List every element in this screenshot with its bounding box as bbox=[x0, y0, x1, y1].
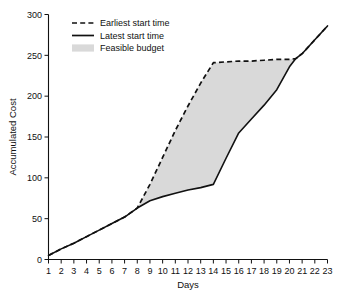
x-tick-label: 19 bbox=[272, 266, 282, 276]
x-tick-label: 10 bbox=[158, 266, 168, 276]
y-tick-label: 100 bbox=[27, 173, 42, 183]
legend-gray-swatch-icon bbox=[72, 44, 94, 51]
x-tick-label: 7 bbox=[122, 266, 127, 276]
x-tick-label: 15 bbox=[221, 266, 231, 276]
x-tick-label: 22 bbox=[310, 266, 320, 276]
x-tick-label: 1 bbox=[46, 266, 51, 276]
legend-item-label: Feasible budget bbox=[100, 43, 165, 53]
x-tick-label: 17 bbox=[246, 266, 256, 276]
y-tick-label: 250 bbox=[27, 51, 42, 61]
x-tick-label: 21 bbox=[297, 266, 307, 276]
x-tick-label: 3 bbox=[71, 266, 76, 276]
x-tick-label: 13 bbox=[196, 266, 206, 276]
x-tick-label: 2 bbox=[59, 266, 64, 276]
x-tick-label: 11 bbox=[171, 266, 180, 276]
y-tick-label: 150 bbox=[27, 132, 42, 142]
x-tick-label: 23 bbox=[322, 266, 332, 276]
x-axis-title: Days bbox=[177, 279, 199, 290]
y-tick-label: 300 bbox=[27, 10, 42, 20]
y-tick-label: 0 bbox=[37, 255, 42, 265]
x-tick-label: 16 bbox=[234, 266, 244, 276]
x-tick-label: 18 bbox=[259, 266, 269, 276]
chart-canvas: 1234567891011121314151617181920212223 05… bbox=[0, 0, 343, 301]
y-tick-label: 50 bbox=[32, 214, 42, 224]
y-axis-title: Accumulated Cost bbox=[7, 98, 18, 175]
x-tick-label: 9 bbox=[147, 266, 152, 276]
x-tick-label: 6 bbox=[109, 266, 114, 276]
x-tick-label: 12 bbox=[183, 266, 193, 276]
x-tick-label: 20 bbox=[284, 266, 294, 276]
x-tick-label: 4 bbox=[84, 266, 89, 276]
y-tick-label: 200 bbox=[27, 91, 42, 101]
legend-item-label: Latest start time bbox=[100, 31, 164, 41]
budget-chart: 1234567891011121314151617181920212223 05… bbox=[0, 0, 343, 301]
x-tick-label: 5 bbox=[97, 266, 102, 276]
legend-item-label: Earliest start time bbox=[100, 18, 170, 28]
x-tick-label: 14 bbox=[208, 266, 218, 276]
x-tick-label: 8 bbox=[135, 266, 140, 276]
